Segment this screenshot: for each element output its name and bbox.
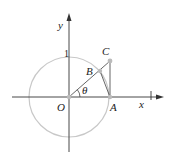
unit-circle-diagram: y x 1 O A B C θ: [0, 0, 174, 164]
unit-mark-label: 1: [64, 48, 69, 59]
point-C-label: C: [102, 45, 110, 57]
point-O-marker: [67, 95, 71, 99]
x-axis-label: x: [138, 98, 144, 110]
y-axis-label: y: [57, 19, 63, 31]
angle-theta-label: θ: [82, 84, 88, 96]
point-C-marker: [108, 59, 113, 64]
segment-BA: [100, 71, 110, 97]
point-B-label: B: [86, 65, 93, 77]
point-B-marker: [98, 69, 102, 73]
point-A-label: A: [109, 101, 117, 113]
x-axis-arrow-icon: [156, 95, 164, 100]
angle-arc: [77, 90, 80, 97]
origin-label: O: [57, 101, 65, 113]
diagram-svg: y x 1 O A B C θ: [0, 0, 174, 164]
point-A-marker: [108, 95, 112, 99]
y-axis-arrow-icon: [67, 13, 72, 21]
